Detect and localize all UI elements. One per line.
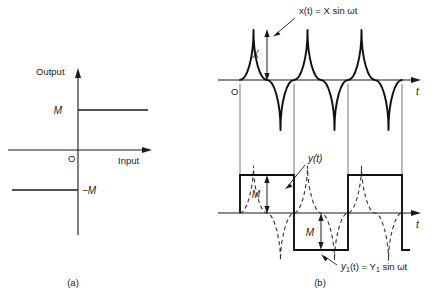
panel-a-output-axis-label: Output [36,66,65,77]
fundamental-eq-tail: sin ωt [380,261,408,272]
panel-b-input-equation-leader-arrowhead [273,31,281,36]
panel-b-input-group: X x(t) = X sin ωt O t [218,5,421,130]
panel-b-upper-level-label: M [252,189,261,200]
panel-b-lower-level-arrowhead-top [318,213,323,221]
panel-b-input-equation-leader [276,18,295,34]
panel-b-caption: (b) [314,277,326,288]
panel-b-amplitude-arrowhead-top [264,29,269,37]
panel-b-guide-lines [240,84,402,213]
figure-root: Output Input O M −M (a) X x(t) = X sin [0,0,435,299]
panel-b-output-time-axis-arrowhead [411,210,421,216]
panel-b-output-time-axis-label: t [416,219,420,230]
figure-canvas: Output Input O M −M (a) X x(t) = X sin [0,0,435,299]
panel-a-caption: (a) [67,277,79,288]
panel-a-origin-label: O [68,153,75,164]
panel-b-input-time-axis-label: t [416,86,420,97]
panel-a-input-axis-label: Input [118,155,139,166]
panel-a-group: Output Input O M −M (a) [8,66,152,288]
panel-b-lower-level-arrowhead-bottom [318,242,323,250]
panel-b-input-sine-curve [240,30,402,130]
panel-b-input-time-axis-arrowhead [411,77,421,83]
fundamental-eq-mid: (t) = Y [350,261,377,272]
panel-a-positive-level-label: M [54,105,63,116]
panel-b-output-label: y(t) [307,153,322,164]
panel-b-input-equation-label: x(t) = X sin ωt [299,5,358,16]
panel-a-negative-level-label: −M [82,185,97,196]
panel-b-lower-level-label: M [306,227,315,238]
panel-a-output-axis-arrowhead [75,68,81,78]
panel-b-input-origin-label: O [231,86,238,97]
panel-b-upper-level-arrowhead-top [264,175,269,183]
panel-b-output-group: M M y(t) y1(t) = Y1 sin ωt t (b) [218,153,421,288]
panel-b-input-amplitude-label: X [251,49,259,60]
panel-a-input-axis-arrowhead [142,147,152,153]
panel-b-fundamental-equation-label: y1(t) = Y1 sin ωt [340,261,408,273]
